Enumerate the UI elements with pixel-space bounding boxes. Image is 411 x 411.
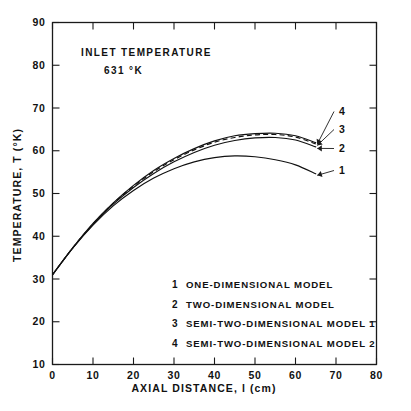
x-tick-label: 60 (289, 369, 302, 381)
curve-end-label-1: 1 (339, 164, 345, 176)
legend: 1ONE-DIMENSIONAL MODEL2TWO-DIMENSIONAL M… (172, 279, 376, 349)
y-tick-label: 80 (33, 59, 46, 71)
series-line-3 (53, 134, 316, 274)
y-tick-label: 40 (33, 230, 46, 242)
data-curves (53, 133, 316, 275)
series-line-1 (53, 156, 316, 275)
legend-number-1: 1 (172, 279, 178, 290)
series-line-4 (53, 133, 316, 275)
x-axis-title: AXIAL DISTANCE, l (cm) (131, 382, 276, 394)
inlet-temperature-line1: INLET TEMPERATURE (81, 47, 212, 58)
curve-end-label-3: 3 (339, 123, 345, 135)
legend-number-4: 4 (172, 338, 178, 349)
chart-plot-area: 102030405060708090 01020304050607080 AXI… (0, 0, 411, 411)
legend-label-1: ONE-DIMENSIONAL MODEL (186, 279, 333, 290)
plot-frame (53, 23, 377, 365)
x-tick-label: 10 (87, 369, 100, 381)
y-tick-label: 90 (33, 16, 46, 28)
curve-end-label-4: 4 (339, 105, 345, 117)
legend-label-3: SEMI-TWO-DIMENSIONAL MODEL 1 (186, 318, 376, 329)
curve-leader-line-4 (317, 112, 334, 145)
x-axis-ticks (53, 23, 377, 365)
curve-leader-arrow-2 (317, 145, 322, 151)
inlet-temperature-line2: 631 °K (104, 65, 143, 76)
y-tick-label: 60 (33, 144, 46, 156)
legend-number-2: 2 (172, 299, 178, 310)
curve-end-leaders: 4321 (317, 105, 345, 177)
x-tick-label: 0 (49, 369, 55, 381)
x-tick-label: 70 (330, 369, 343, 381)
y-tick-label: 30 (33, 273, 46, 285)
x-tick-label: 40 (208, 369, 221, 381)
x-tick-label: 30 (168, 369, 181, 381)
legend-number-3: 3 (172, 318, 178, 329)
x-axis-tick-labels: 01020304050607080 (49, 369, 383, 381)
y-axis-ticks (53, 23, 377, 365)
y-tick-label: 10 (33, 358, 46, 370)
y-tick-label: 70 (33, 102, 46, 114)
y-tick-label: 20 (33, 315, 46, 327)
x-tick-label: 80 (370, 369, 383, 381)
legend-label-4: SEMI-TWO-DIMENSIONAL MODEL 2 (186, 338, 376, 349)
y-tick-label: 50 (33, 187, 46, 199)
y-axis-tick-labels: 102030405060708090 (33, 16, 46, 370)
curve-end-label-2: 2 (339, 142, 345, 154)
legend-label-2: TWO-DIMENSIONAL MODEL (186, 299, 335, 310)
chart-figure: 102030405060708090 01020304050607080 AXI… (0, 0, 411, 411)
series-line-2 (53, 137, 316, 274)
x-tick-label: 20 (127, 369, 140, 381)
y-axis-title: TEMPERATURE, T (°K) (11, 128, 23, 262)
x-tick-label: 50 (249, 369, 262, 381)
